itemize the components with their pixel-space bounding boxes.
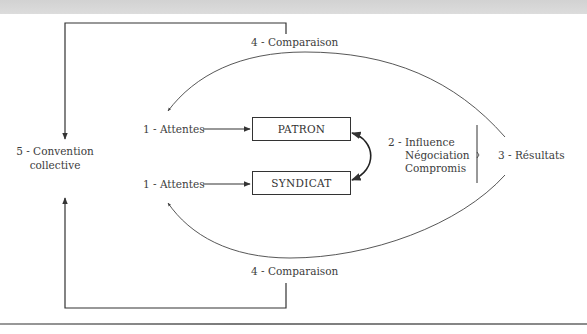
comparaison-top-label: 4 - Comparaison xyxy=(251,36,338,48)
process-label-compromis: Compromis xyxy=(388,162,470,174)
attentes-syndicat-label: 1 - Attentes xyxy=(143,178,205,190)
process-label-negociation: Négociation xyxy=(388,149,470,161)
patron-box: PATRON xyxy=(252,117,351,141)
resultats-label: 3 - Résultats xyxy=(498,149,565,161)
convention-label-line2: collective xyxy=(5,159,105,171)
bottom-feedback-arrow xyxy=(65,198,286,308)
process-label: 2 - Influence Négociation Compromis xyxy=(388,136,470,174)
bottom-divider xyxy=(0,323,587,325)
patron-label: PATRON xyxy=(278,123,326,135)
syndicat-box: SYNDICAT xyxy=(252,171,351,195)
syndicat-label: SYNDICAT xyxy=(271,177,331,189)
convention-label-line1: 5 - Convention xyxy=(5,145,105,157)
process-label-influence: 2 - Influence xyxy=(388,136,470,148)
results-bracket xyxy=(477,125,479,183)
comparaison-bottom-label: 4 - Comparaison xyxy=(251,265,338,277)
convention-label: 5 - Convention collective xyxy=(5,145,105,171)
attentes-patron-label: 1 - Attentes xyxy=(143,123,205,135)
interaction-double-arrow xyxy=(352,133,371,180)
